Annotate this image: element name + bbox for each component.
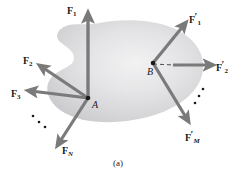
label-fm-prime: F′M [185,130,200,145]
label-fn-subscript: N [68,150,73,158]
label-f3: F3 [11,89,21,101]
point-a-label: A [92,100,98,110]
label-f3-subscript: 3 [17,93,21,101]
label-f1: F1 [67,6,77,18]
label-f1-prime-subscript: 1 [197,19,201,27]
label-f2-prime-subscript: 2 [224,67,228,75]
label-f2: F2 [23,56,33,68]
figure-caption: (a) [0,158,236,168]
label-fn: FN [62,146,73,158]
point-a-dot [86,96,91,101]
label-f2-subscript: 2 [29,60,33,68]
label-f2-prime: F′2 [216,60,228,75]
ellipsis-right [194,88,205,105]
label-f1-subscript: 1 [73,10,77,18]
force-diagram-figure: F1 F2 F3 FN F′1 F′2 F′M A B (a) [0,0,236,177]
ellipsis-left [32,115,47,129]
point-b-label: B [147,67,153,77]
label-fm-prime-subscript: M [193,137,199,145]
label-f1-prime: F′1 [189,12,201,27]
point-b-dot [151,61,156,66]
